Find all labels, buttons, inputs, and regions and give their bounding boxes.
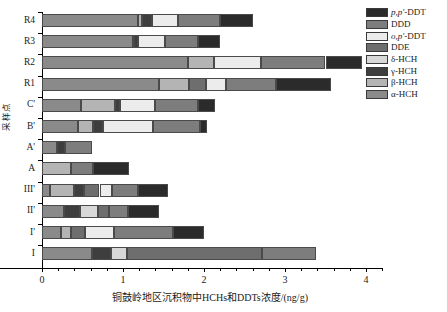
bar-segment bbox=[42, 56, 188, 69]
x-axis-tick-minor bbox=[253, 268, 254, 271]
bar-segment bbox=[138, 35, 165, 48]
bar-segment bbox=[128, 205, 160, 218]
legend-label: γ-HCH bbox=[391, 67, 417, 76]
x-axis-tick-major bbox=[123, 268, 124, 272]
bar-segment bbox=[276, 78, 331, 91]
legend-item: DDE bbox=[366, 42, 446, 54]
bar-segment bbox=[42, 78, 159, 91]
bar-segment bbox=[93, 120, 103, 133]
bar-segment bbox=[92, 247, 111, 260]
bar-segment bbox=[93, 162, 129, 175]
y-axis-tick bbox=[38, 118, 42, 119]
y-axis-tick bbox=[38, 33, 42, 34]
bar-segment bbox=[214, 56, 261, 69]
x-axis-title: 铜鼓岭地区沉积物中HCHs和DDTs浓度/(ng/g) bbox=[0, 289, 420, 304]
chart-figure: 采样点 R4R3R2R1C'B'A'AIII'II'I'I 01234 铜鼓岭地… bbox=[0, 0, 447, 312]
bar-segment bbox=[261, 56, 326, 69]
y-axis-tick-label-R3: R3 bbox=[0, 37, 35, 47]
x-axis-tick-major bbox=[42, 268, 43, 272]
bar-segment bbox=[220, 14, 252, 27]
bar-segment bbox=[42, 99, 81, 112]
y-axis-tick bbox=[38, 182, 42, 183]
bar-segment bbox=[78, 120, 93, 133]
x-axis-tick-label-2: 2 bbox=[192, 274, 216, 285]
legend-label: o,p'-DDT bbox=[391, 32, 426, 41]
x-axis-tick-minor bbox=[334, 268, 335, 271]
bar-segment bbox=[226, 78, 276, 91]
bar-segment bbox=[103, 120, 153, 133]
y-axis-tick bbox=[38, 245, 42, 246]
bar-segment bbox=[50, 184, 74, 197]
x-axis-tick-minor bbox=[269, 268, 270, 271]
legend-item: γ-HCH bbox=[366, 65, 446, 77]
x-axis-tick-minor bbox=[236, 268, 237, 271]
y-axis-tick-label-Bp: B' bbox=[0, 122, 35, 132]
legend-label: p,p'-DDT bbox=[391, 8, 426, 17]
bar-segment bbox=[100, 184, 112, 197]
x-axis-tick-minor bbox=[220, 268, 221, 271]
legend-label: α-HCH bbox=[391, 90, 418, 99]
bar-segment bbox=[111, 247, 127, 260]
bar-segment bbox=[165, 35, 197, 48]
legend-swatch bbox=[366, 8, 388, 17]
bar-segment bbox=[188, 56, 214, 69]
bar-segment bbox=[42, 120, 78, 133]
bar-segment bbox=[42, 226, 61, 239]
y-axis-tick bbox=[38, 97, 42, 98]
x-axis-tick-minor bbox=[301, 268, 302, 271]
x-axis-tick-major bbox=[204, 268, 205, 272]
x-axis-tick-minor bbox=[155, 268, 156, 271]
y-axis-tick-label-IIp: II' bbox=[0, 206, 35, 216]
bar-segment bbox=[57, 141, 65, 154]
bar-segment bbox=[42, 141, 57, 154]
bar-segment bbox=[64, 205, 80, 218]
x-axis-tick-label-4: 4 bbox=[354, 274, 378, 285]
x-axis-tick-minor bbox=[188, 268, 189, 271]
y-axis-tick bbox=[38, 12, 42, 13]
bar-segment bbox=[114, 226, 173, 239]
y-axis-tick-label-R2: R2 bbox=[0, 58, 35, 68]
bar-segment bbox=[74, 184, 84, 197]
bar-segment bbox=[85, 226, 114, 239]
y-axis-tick bbox=[38, 139, 42, 140]
bar-segment bbox=[81, 99, 115, 112]
bar-segment bbox=[326, 56, 362, 69]
bar-segment bbox=[42, 14, 138, 27]
y-axis-tick-label-Ap: A' bbox=[0, 143, 35, 153]
bar-segment bbox=[61, 226, 71, 239]
bar-segment bbox=[198, 35, 221, 48]
bar-segment bbox=[152, 14, 178, 27]
bar-segment bbox=[127, 247, 262, 260]
bar-segment bbox=[71, 162, 93, 175]
bar-segment bbox=[142, 14, 152, 27]
y-axis-tick-label-Cp: C' bbox=[0, 100, 35, 110]
y-axis-tick bbox=[38, 54, 42, 55]
x-axis-tick-minor bbox=[172, 268, 173, 271]
x-axis-tick-minor bbox=[317, 268, 318, 271]
bar-segment bbox=[120, 99, 156, 112]
bar-segment bbox=[98, 205, 109, 218]
bar-segment bbox=[42, 184, 50, 197]
y-axis-tick-label-I: I bbox=[0, 249, 35, 259]
bar-segment bbox=[42, 205, 64, 218]
legend-swatch bbox=[366, 55, 388, 64]
bar-segment bbox=[80, 205, 98, 218]
y-axis-tick bbox=[38, 160, 42, 161]
bar-segment bbox=[178, 14, 220, 27]
x-axis-tick-minor bbox=[91, 268, 92, 271]
legend-item: β-HCH bbox=[366, 77, 446, 89]
bar-segment bbox=[84, 184, 99, 197]
y-axis-tick-label-R4: R4 bbox=[0, 16, 35, 26]
y-axis-tick bbox=[38, 224, 42, 225]
y-axis-tick bbox=[38, 76, 42, 77]
bar-segment bbox=[112, 184, 138, 197]
x-axis-tick-label-3: 3 bbox=[273, 274, 297, 285]
bar-segment bbox=[189, 78, 207, 91]
legend-swatch bbox=[366, 43, 388, 52]
x-axis-tick-major bbox=[285, 268, 286, 272]
legend-item: δ-HCH bbox=[366, 54, 446, 66]
bar-segment bbox=[138, 184, 168, 197]
y-axis-tick-label-IIIp: III' bbox=[0, 185, 35, 195]
x-axis-tick-major bbox=[366, 268, 367, 272]
bar-segment bbox=[262, 247, 315, 260]
